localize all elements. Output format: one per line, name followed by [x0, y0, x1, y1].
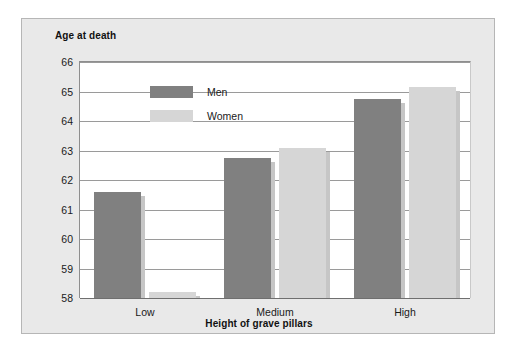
- bar-high-men[interactable]: [354, 99, 401, 298]
- x-axis-title: Height of grave pillars: [22, 318, 496, 329]
- bar-medium-men[interactable]: [224, 158, 271, 298]
- chart-panel: Age at death 585960616263646566 LowMediu…: [21, 18, 495, 334]
- bar-high-women[interactable]: [409, 87, 456, 298]
- y-tick-label-60: 60: [61, 233, 73, 245]
- y-tick-label-59: 59: [61, 263, 73, 275]
- y-tick-label-62: 62: [61, 174, 73, 186]
- bar-fill: [279, 148, 326, 298]
- bar-fill: [354, 99, 401, 298]
- x-tick-label-high: High: [394, 306, 416, 318]
- bar-medium-women[interactable]: [279, 148, 326, 298]
- legend-swatch-women: [150, 110, 193, 122]
- plot-area: 585960616263646566 LowMediumHigh: [79, 61, 471, 298]
- bar-low-men[interactable]: [94, 192, 141, 298]
- y-tick-label-66: 66: [61, 56, 73, 68]
- legend-label-women: Women: [207, 107, 243, 125]
- y-axis-title: Age at death: [55, 30, 116, 41]
- y-tick-label-58: 58: [61, 292, 73, 304]
- y-tick-label-61: 61: [61, 204, 73, 216]
- bars-layer: [80, 62, 470, 298]
- legend-swatch-men: [150, 86, 193, 98]
- y-tick-label-64: 64: [61, 115, 73, 127]
- x-tick-label-low: Low: [135, 306, 154, 318]
- bar-fill: [409, 87, 456, 298]
- bar-low-women[interactable]: [149, 292, 196, 298]
- legend-label-men: Men: [207, 83, 227, 101]
- bar-fill: [94, 192, 141, 298]
- y-tick-label-63: 63: [61, 145, 73, 157]
- gridline-58: 58: [80, 298, 470, 299]
- x-tick-label-medium: Medium: [256, 306, 293, 318]
- bar-fill: [149, 292, 196, 298]
- y-tick-label-65: 65: [61, 86, 73, 98]
- bar-fill: [224, 158, 271, 298]
